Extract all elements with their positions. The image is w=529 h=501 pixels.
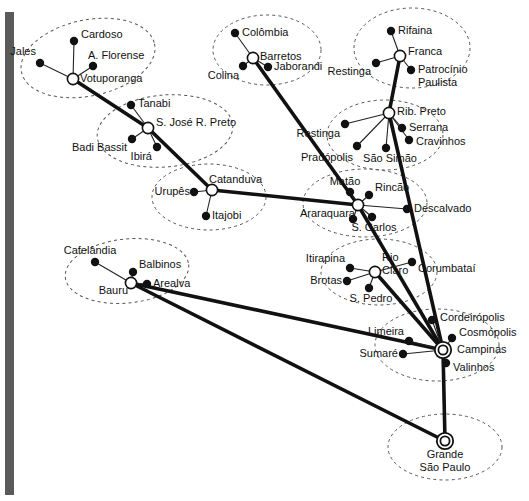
terminal-node-aflorense[interactable] (89, 62, 97, 70)
gateway-node-campinas[interactable] (435, 342, 451, 358)
hub-label-campinas: Campinas (457, 343, 507, 355)
terminal-node-rifaina[interactable] (387, 27, 395, 35)
trunk-link-bauru-saopaulo (131, 283, 445, 441)
terminal-node-badibassit[interactable] (128, 135, 136, 143)
terminal-node-serrana[interactable] (398, 124, 406, 132)
terminal-label-valinhos: Valinhos (453, 361, 495, 373)
terminal-label-limeira: Limeira (368, 325, 405, 337)
terminal-node-matao[interactable] (346, 188, 354, 196)
spoke-link-ribpreto-pradopolis (357, 113, 389, 146)
terminal-label-balbinos: Balbinos (139, 258, 182, 270)
terminal-node-ibira[interactable] (153, 143, 161, 151)
terminal-node-itirapina[interactable] (346, 264, 354, 272)
terminal-node-patrocinio[interactable] (407, 66, 415, 74)
terminal-node-limeira[interactable] (405, 337, 413, 345)
terminal-label-rincao: Rincão (375, 181, 409, 193)
hub-label-sjrpreto: S. José R. Preto (156, 116, 236, 128)
spoke-link-ribpreto-restinga-r (345, 113, 389, 124)
scan-artifact-bar (5, 12, 14, 495)
terminal-label-restinga-f: Restinga (328, 65, 372, 77)
trunk-link-votuporanga-sjrpreto (73, 79, 148, 128)
hub-node-catanduva[interactable] (206, 184, 217, 195)
network-diagram-canvas: CardosoJalesA. FlorenseColômbiaColinaJab… (0, 0, 529, 501)
hub-node-sjrpreto[interactable] (142, 122, 153, 133)
terminal-label-corumbatai: Corumbataí (418, 262, 475, 274)
trunk-link-sjrpreto-catanduva (148, 128, 212, 190)
terminal-node-colombia[interactable] (231, 29, 239, 37)
terminal-node-cosmopolis[interactable] (448, 334, 456, 342)
terminal-label-ibira: Ibirá (131, 150, 153, 162)
network-map-svg: CardosoJalesA. FlorenseColômbiaColinaJab… (0, 0, 529, 501)
hub-label-franca: Franca (408, 45, 443, 57)
terminal-node-corumbatai[interactable] (408, 258, 416, 266)
terminal-node-cardoso[interactable] (70, 37, 78, 45)
terminal-label-tanabi: Tanabi (138, 97, 170, 109)
terminal-node-cordeiropolis[interactable] (428, 316, 436, 324)
terminal-label-cafelandia: Cafelândia (64, 244, 117, 256)
hub-nodes (67, 50, 453, 449)
terminal-label-itirapina: Itirapina (306, 252, 346, 264)
terminal-label-spedro: S. Pedro (350, 292, 393, 304)
terminal-node-sumare[interactable] (399, 350, 407, 358)
terminal-label-restinga-r: Restinga (297, 127, 341, 139)
terminal-label-colina: Colina (208, 69, 240, 81)
terminal-node-arealva[interactable] (143, 280, 151, 288)
trunk-link-bauru-campinas (131, 283, 443, 350)
terminal-label-patrocinio: PatrocínioPaulista (418, 63, 468, 88)
trunk-link-catanduva-araraquara (212, 190, 358, 205)
terminal-node-urupes[interactable] (190, 188, 198, 196)
terminal-label-serrana: Serrana (409, 121, 449, 133)
terminal-label-itajobi: Itajobi (212, 209, 241, 221)
spoke-link-araraquara-descalvado (358, 205, 407, 209)
terminal-node-valinhos[interactable] (442, 359, 450, 367)
terminal-node-cravinhos[interactable] (405, 136, 413, 144)
terminal-label-rifaina: Rifaina (398, 24, 433, 36)
terminal-label-arealva: Arealva (153, 277, 191, 289)
terminal-label-urupes: Urupês (155, 185, 191, 197)
terminal-node-pradopolis[interactable] (353, 142, 361, 150)
trunk-link-ribpreto-campinas (389, 113, 443, 350)
terminal-node-balbinos[interactable] (129, 268, 137, 276)
terminal-node-jales[interactable] (36, 59, 44, 67)
hub-label-bauru: Bauru (99, 284, 128, 296)
hub-label-catanduva: Catanduva (209, 173, 263, 185)
terminal-node-restinga-f[interactable] (372, 59, 380, 67)
hub-node-franca[interactable] (394, 50, 405, 61)
hub-label-saopaulo: GrandeSão Paulo (420, 448, 471, 473)
terminal-node-cafelandia[interactable] (91, 258, 99, 266)
hub-label-barretos: Barretos (260, 50, 302, 62)
terminal-label-jales: Jales (10, 45, 36, 57)
terminal-label-saosimao: São Simão (363, 152, 417, 164)
gateway-node-saopaulo[interactable] (437, 433, 453, 449)
terminal-label-cordeiropolis: Cordeirópolis (440, 311, 505, 323)
terminal-label-matao: Matão (330, 175, 361, 187)
hub-node-rioclaro[interactable] (369, 266, 380, 277)
hub-label-votuporanga: Votuporanga (80, 72, 143, 84)
terminal-node-colina[interactable] (239, 62, 247, 70)
hub-node-ribpreto[interactable] (383, 107, 394, 118)
hub-label-rioclaro: RioClaro (382, 251, 408, 276)
terminal-label-badibassit: Badi Bassit (72, 141, 127, 153)
terminal-label-pradopolis: Pradópolis (301, 151, 353, 163)
terminal-node-jaborandi[interactable] (264, 63, 272, 71)
hub-label-ribpreto: Rib. Preto (397, 105, 446, 117)
hub-node-barretos[interactable] (247, 52, 258, 63)
terminal-label-cosmopolis: Cosmópolis (459, 326, 517, 338)
terminal-label-aflorense: A. Florense (88, 49, 144, 61)
terminal-label-sumare: Sumaré (359, 347, 398, 359)
terminal-node-descalvado[interactable] (403, 205, 411, 213)
terminal-label-saocarlos: S. Carlos (351, 221, 397, 233)
terminal-label-descalvado: Descalvado (414, 202, 471, 214)
hub-label-araraquara: Araraquara (300, 207, 356, 219)
terminal-label-cardoso: Cardoso (81, 28, 123, 40)
terminal-node-rincao[interactable] (365, 191, 373, 199)
terminal-node-tanabi[interactable] (127, 101, 135, 109)
terminal-node-itajobi[interactable] (202, 212, 210, 220)
terminal-label-cravinhos: Cravinhos (416, 135, 466, 147)
terminal-node-restinga-r[interactable] (341, 120, 349, 128)
terminal-label-brotas: Brotas (310, 274, 342, 286)
hub-node-votuporanga[interactable] (67, 73, 78, 84)
terminal-label-colombia: Colômbia (242, 26, 289, 38)
terminal-node-brotas[interactable] (343, 277, 351, 285)
